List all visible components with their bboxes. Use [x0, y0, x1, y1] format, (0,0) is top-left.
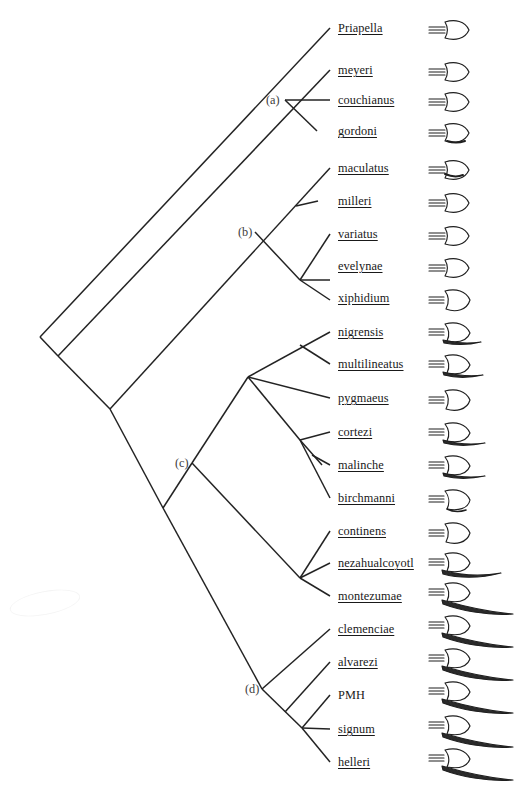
tip-label-gordoni: gordoni: [338, 125, 377, 137]
tip-label-cortezi: cortezi: [338, 426, 372, 438]
tip-label-nigrensis: nigrensis: [338, 326, 383, 338]
caudal-fin-icon-helleri: [425, 742, 515, 788]
tip-label-nezahualcoyotl: nezahualcoyotl: [338, 557, 414, 569]
tip-label-couchianus: couchianus: [338, 94, 394, 106]
caudal-fin-icon-gordoni: [425, 113, 515, 153]
tip-label-pygmaeus: pygmaeus: [338, 392, 389, 404]
tip-label-malinche: malinche: [338, 459, 384, 471]
tip-label-maculatus: maculatus: [338, 162, 389, 174]
tip-label-xiphidium: xiphidium: [338, 292, 389, 304]
tip-label-milleri: milleri: [338, 195, 371, 207]
tip-label-helleri: helleri: [338, 756, 370, 768]
tip-label-meyeri: meyeri: [338, 64, 373, 76]
tip-label-alvarezi: alvarezi: [338, 656, 378, 668]
tip-label-signum: signum: [338, 723, 375, 735]
tip-label-continens: continens: [338, 525, 386, 537]
tip-label-clemenciae: clemenciae: [338, 623, 394, 635]
tip-label-birchmanni: birchmanni: [338, 492, 395, 504]
tip-label-pmh: PMH: [338, 689, 365, 701]
caudal-fin-icon-priapella: [425, 10, 515, 50]
node-label-a: (a): [266, 93, 280, 108]
tip-label-montezumae: montezumae: [338, 590, 402, 602]
node-label-d: (d): [245, 682, 259, 697]
phylogenetic-tree-figure: (a) (b) (c) (d) Priapella meyeri couchia…: [0, 0, 515, 808]
node-label-c: (c): [175, 456, 189, 471]
tip-label-priapella: Priapella: [338, 22, 383, 34]
tip-label-variatus: variatus: [338, 228, 378, 240]
tip-label-multilineatus: multilineatus: [338, 358, 404, 370]
node-label-b: (b): [238, 225, 252, 240]
tip-label-evelynae: evelynae: [338, 260, 383, 272]
